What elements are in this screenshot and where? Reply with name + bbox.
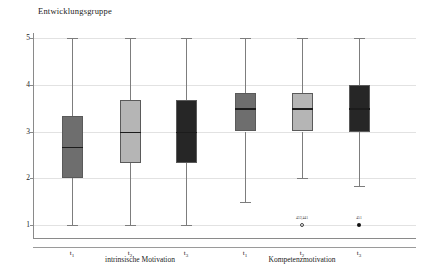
y-tick-1: 1 — [0, 220, 30, 230]
boxplot-chart: Entwicklungsgruppe 54321 433¦441451 t1t2… — [0, 0, 425, 274]
whisker-cap-upper — [181, 38, 192, 39]
y-axis-line — [33, 33, 34, 238]
whisker-cap-upper — [240, 38, 251, 39]
whisker-cap-lower — [125, 225, 136, 226]
box-iqr — [235, 93, 256, 132]
box-plot-intrinsische-motivation-t1 — [52, 0, 92, 240]
whisker-lower — [359, 132, 360, 187]
y-tick-label: 5 — [16, 33, 30, 42]
x-tick-label-2: t3 — [184, 249, 188, 258]
box-plot-kompetenzmotivation-t2: 433¦441 — [282, 0, 322, 240]
y-tick-label: 4 — [16, 80, 30, 89]
box-plot-intrinsische-motivation-t2 — [110, 0, 150, 240]
whisker-cap-upper — [125, 38, 136, 39]
median-line — [176, 132, 197, 133]
whisker-upper — [359, 38, 360, 85]
x-tick-label-3: t1 — [243, 249, 247, 258]
whisker-upper — [72, 38, 73, 116]
whisker-upper — [302, 38, 303, 93]
y-tick-label: 3 — [16, 127, 30, 136]
x-tick-label-0: t1 — [70, 249, 74, 258]
whisker-upper — [130, 38, 131, 100]
whisker-cap-upper — [354, 38, 365, 39]
whisker-cap-upper — [297, 38, 308, 39]
y-tick-5: 5 — [0, 33, 30, 43]
whisker-lower — [186, 163, 187, 225]
whisker-cap-upper — [67, 38, 78, 39]
y-tick-4: 4 — [0, 80, 30, 90]
median-line — [292, 108, 313, 109]
group-label-left: intrinsische Motivation — [105, 255, 175, 264]
group-label-right: Kompetenzmotivation — [268, 255, 335, 264]
median-line — [62, 147, 83, 148]
box-iqr — [292, 93, 313, 132]
whisker-cap-lower — [354, 186, 365, 187]
x-tick-label-5: t3 — [357, 249, 361, 258]
outlier-label: 451 — [356, 216, 362, 220]
outlier-point — [300, 223, 304, 227]
box-plot-intrinsische-motivation-t3 — [166, 0, 206, 240]
median-line — [349, 108, 370, 109]
y-tick-label: 1 — [16, 220, 30, 229]
whisker-upper — [245, 38, 246, 93]
whisker-cap-lower — [181, 225, 192, 226]
whisker-cap-lower — [240, 202, 251, 203]
box-plot-kompetenzmotivation-t1 — [225, 0, 265, 240]
box-plot-kompetenzmotivation-t3: 451 — [339, 0, 379, 240]
whisker-lower — [245, 132, 246, 202]
whisker-lower — [130, 163, 131, 225]
median-line — [120, 132, 141, 133]
y-tick-2: 2 — [0, 173, 30, 183]
plot-frame-bottom — [33, 247, 416, 248]
outlier-point — [357, 223, 361, 227]
whisker-lower — [72, 178, 73, 225]
y-tick-label: 2 — [16, 173, 30, 182]
whisker-upper — [186, 38, 187, 100]
whisker-cap-lower — [297, 178, 308, 179]
outlier-label: 433¦441 — [296, 216, 308, 220]
whisker-cap-lower — [67, 225, 78, 226]
whisker-lower — [302, 132, 303, 179]
y-tick-3: 3 — [0, 127, 30, 137]
median-line — [235, 108, 256, 109]
